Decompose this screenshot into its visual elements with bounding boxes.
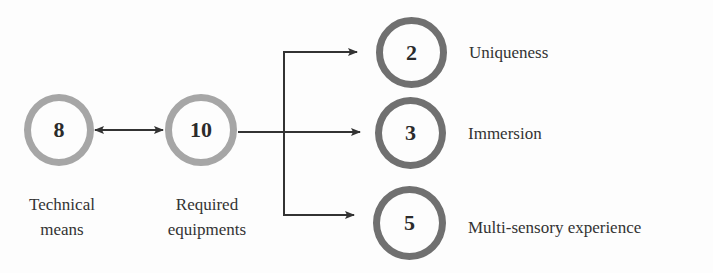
label-immersion: Immersion [468,121,542,146]
label-uniqueness: Uniqueness [469,40,548,65]
node-value: 2 [406,40,417,66]
node-value: 8 [54,117,65,143]
node-multisensory: 5 [373,186,446,260]
label-multisensory: Multi-sensory experience [468,215,641,240]
label-required-equipments: Required equipments [152,192,262,242]
node-value: 5 [404,210,415,236]
node-technical-means: 8 [24,94,94,166]
node-value: 10 [190,117,212,143]
node-uniqueness: 2 [376,17,447,88]
node-required-equipments: 10 [165,94,237,166]
label-technical-means: Technical means [12,192,112,242]
diagram-canvas: 8 10 Technical means Required equipments… [0,0,713,273]
node-value: 3 [405,120,416,146]
node-immersion: 3 [375,97,446,169]
